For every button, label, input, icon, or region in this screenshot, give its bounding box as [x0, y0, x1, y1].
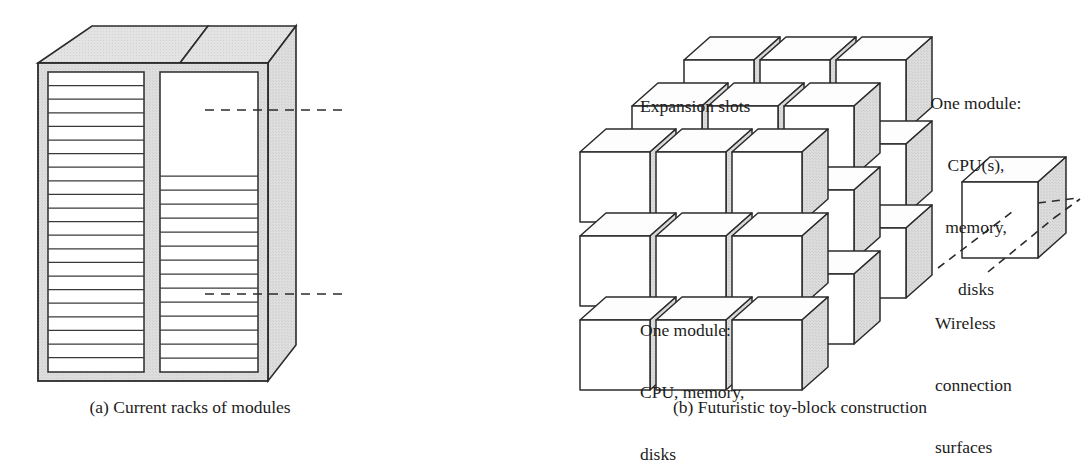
callout-line: CPU(s), — [888, 155, 1064, 176]
callout-line: connection — [935, 375, 1085, 396]
block-array — [580, 37, 932, 390]
caption-panel-a: (a) Current racks of modules — [40, 397, 340, 418]
callout-line: memory, — [888, 217, 1064, 238]
callout-wireless-surfaces: Wireless connection surfaces — [935, 272, 1085, 464]
callout-line: One module: — [888, 93, 1064, 114]
callout-line: One module: — [640, 320, 744, 341]
block — [732, 129, 828, 222]
block — [732, 297, 828, 390]
callout-one-module-rack: One module: CPU, memory, disks — [640, 279, 744, 464]
caption-panel-b: (b) Futuristic toy-block construction — [600, 397, 1000, 418]
callout-expansion-slots: Expansion slots — [640, 96, 750, 117]
callout-line: Wireless — [935, 313, 1085, 334]
callout-line: disks — [640, 444, 744, 464]
callout-line: surfaces — [935, 437, 1085, 458]
block — [732, 213, 828, 306]
